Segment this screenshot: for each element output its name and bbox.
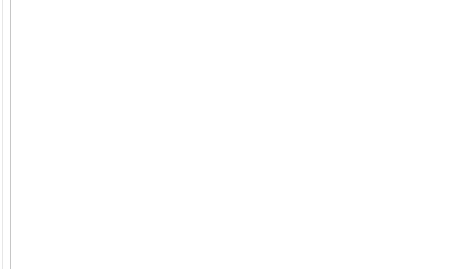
- connector-layer: [0, 0, 475, 269]
- flowchart-page: [0, 0, 475, 269]
